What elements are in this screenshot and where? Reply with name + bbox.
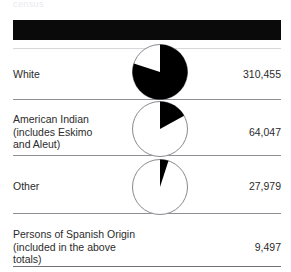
table-row-value-white: 310,455: [191, 68, 281, 81]
pie-chart-white: [132, 44, 188, 100]
census-table-page: census White 310,455 American Indian (in…: [0, 0, 291, 272]
table-row-label-spanish-origin: Persons of Spanish Origin (included in t…: [13, 228, 135, 266]
table-row-value-american-indian: 64,047: [191, 126, 281, 139]
table-row-label-american-indian: American Indian (includes Eskimo and Ale…: [13, 113, 135, 151]
pie-chart-other: [132, 159, 188, 215]
rule-table-bottom: [13, 266, 281, 267]
header-black-bar: [13, 20, 281, 40]
table-row-value-spanish-origin: 9,497: [191, 241, 281, 254]
page-top-partial-text: census: [13, 0, 133, 7]
table-row-value-other: 27,979: [191, 180, 281, 193]
table-row-label-other: Other: [13, 180, 135, 193]
table-row-label-white: White: [13, 68, 135, 81]
pie-chart-american-indian: [132, 101, 188, 157]
